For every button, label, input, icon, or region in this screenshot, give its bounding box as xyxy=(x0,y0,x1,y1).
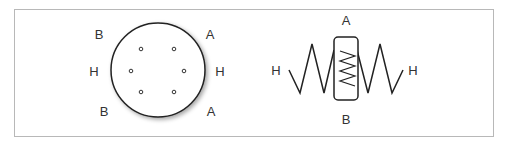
label-top-right: A xyxy=(206,27,215,42)
label-mid-left: H xyxy=(89,64,98,79)
zigzag-left xyxy=(289,44,334,93)
pin-icon xyxy=(172,47,176,51)
round-connector: B A H H B A xyxy=(89,23,224,119)
pin-icon xyxy=(139,47,143,51)
diagram-canvas: B A H H B A A B H H xyxy=(0,0,508,142)
label-bottom: B xyxy=(342,112,351,127)
pin-icon xyxy=(139,90,143,94)
pin-icon xyxy=(182,69,186,73)
pin-icon xyxy=(129,69,133,73)
label-top-left: B xyxy=(95,27,104,42)
label-top: A xyxy=(342,13,351,28)
connector-circle xyxy=(111,23,205,117)
label-mid-right: H xyxy=(215,64,224,79)
label-left: H xyxy=(271,63,280,78)
label-bottom-left: B xyxy=(100,104,109,119)
label-right: H xyxy=(408,63,417,78)
label-bottom-right: A xyxy=(207,104,216,119)
zigzag-right xyxy=(357,44,403,93)
pin-icon xyxy=(172,90,176,94)
potentiometer-symbol xyxy=(289,37,403,100)
